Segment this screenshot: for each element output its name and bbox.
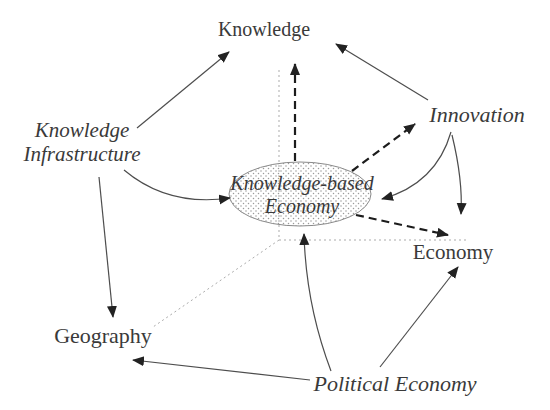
edge-kbe-to-economy-dashed — [356, 215, 448, 235]
node-knowledge-infrastructure-label-line1: Knowledge — [34, 118, 130, 142]
edge-innovation-to-knowledge — [336, 44, 428, 100]
node-political-economy-label: Political Economy — [312, 371, 476, 396]
dotted-axis-diagonal — [153, 240, 279, 327]
node-knowledge-infrastructure-label-line2: Infrastructure — [22, 142, 140, 166]
edge-political-economy-to-economy — [380, 267, 458, 367]
edge-political-economy-to-kbe — [304, 234, 331, 371]
node-knowledge-label: Knowledge — [218, 18, 310, 41]
edge-kbe-to-innovation-dashed — [352, 124, 415, 171]
node-kbe-label-line1: Knowledge-based — [229, 172, 374, 195]
edge-infrastructure-to-kbe — [124, 170, 230, 200]
edge-infrastructure-to-knowledge — [137, 52, 229, 128]
node-kbe-label-line2: Economy — [264, 195, 340, 218]
node-geography-label: Geography — [54, 323, 152, 348]
node-innovation-label: Innovation — [428, 102, 524, 127]
edge-innovation-to-economy — [452, 135, 461, 214]
diagram-canvas: Knowledge Knowledge Infrastructure Innov… — [0, 0, 550, 410]
edge-political-economy-to-geography — [133, 360, 310, 380]
node-economy-label: Economy — [413, 240, 494, 264]
edge-infrastructure-to-geography — [99, 177, 113, 317]
knowledge-economy-diagram: Knowledge Knowledge Infrastructure Innov… — [0, 0, 550, 410]
edge-innovation-to-kbe — [382, 132, 451, 199]
